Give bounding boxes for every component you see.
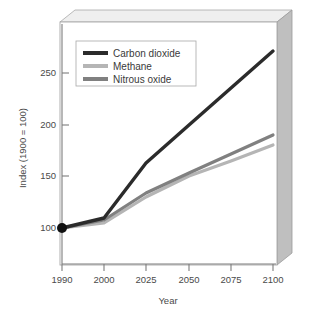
x-tick-label-2025: 2025: [135, 274, 156, 285]
x-tick-label-2050: 2050: [178, 274, 199, 285]
legend-label-methane: Methane: [113, 61, 152, 72]
y-tick-label-250: 250: [40, 67, 56, 78]
frame-right-face: [277, 10, 292, 265]
origin-marker-dot: [57, 223, 67, 233]
y-tick-label-100: 100: [40, 222, 56, 233]
y-axis-title: Index (1900 = 100): [17, 108, 28, 188]
chart-figure: 250 200 150 100 1990 2000 2025 2050 2075…: [0, 0, 316, 321]
x-axis-title: Year: [158, 295, 177, 306]
x-tick-label-2100: 2100: [262, 274, 283, 285]
x-tick-label-2000: 2000: [93, 274, 114, 285]
line-chart: 250 200 150 100 1990 2000 2025 2050 2075…: [0, 0, 316, 321]
y-tick-label-150: 150: [40, 170, 56, 181]
y-tick-label-200: 200: [40, 119, 56, 130]
frame-top-face: [60, 10, 292, 22]
x-tick-label-1990: 1990: [51, 274, 72, 285]
x-tick-label-2075: 2075: [220, 274, 241, 285]
legend-label-carbon-dioxide: Carbon dioxide: [113, 48, 181, 59]
chart-legend: Carbon dioxide Methane Nitrous oxide: [76, 41, 196, 86]
legend-label-nitrous-oxide: Nitrous oxide: [113, 74, 172, 85]
